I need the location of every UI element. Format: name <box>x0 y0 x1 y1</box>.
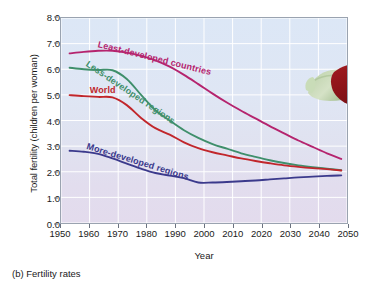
plot-area: Least-developed countriesLess-developed … <box>60 17 348 224</box>
y-axis-ticks: 0.01.02.03.04.05.06.07.08.0 <box>26 0 60 289</box>
y-tick-mark <box>54 42 58 43</box>
figure-caption: (b) Fertility rates <box>12 268 81 279</box>
y-tick-mark <box>54 94 58 95</box>
x-tick-mark <box>290 224 291 228</box>
y-tick-mark <box>54 146 58 147</box>
x-tick-mark <box>348 224 349 228</box>
x-tick-mark <box>89 224 90 228</box>
y-tick-mark <box>54 198 58 199</box>
series-line-2 <box>70 95 342 170</box>
x-tick-mark <box>204 224 205 228</box>
x-tick-mark <box>262 224 263 228</box>
y-tick-mark <box>54 172 58 173</box>
y-tick-mark <box>54 17 58 18</box>
x-tick-mark <box>319 224 320 228</box>
y-tick-mark <box>54 68 58 69</box>
y-tick-mark <box>54 224 58 225</box>
fertility-rates-figure: Total fertility (children per woman) 0.0… <box>0 0 380 289</box>
y-tick-mark <box>54 120 58 121</box>
x-tick-mark <box>60 224 61 228</box>
x-tick-mark <box>118 224 119 228</box>
x-axis-title: Year <box>60 250 348 261</box>
baby-photo <box>304 36 348 120</box>
baby-photo-svg <box>304 36 348 120</box>
x-tick-mark <box>146 224 147 228</box>
x-tick-label: 2050 <box>328 228 368 239</box>
x-tick-mark <box>175 224 176 228</box>
x-tick-mark <box>233 224 234 228</box>
curve-label-2: World <box>90 85 116 95</box>
